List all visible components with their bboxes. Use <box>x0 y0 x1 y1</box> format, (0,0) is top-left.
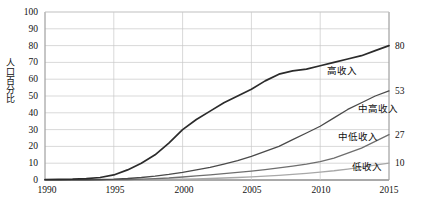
x-tick-label: 1990 <box>27 185 67 195</box>
series-label-low-income: 低收入 <box>352 162 382 172</box>
x-tick-label: 2015 <box>369 185 409 195</box>
x-tick-label: 1995 <box>95 185 135 195</box>
series-label-lower-middle-income: 中低收入 <box>338 132 378 142</box>
chart-container: 人口百分比 100 90 80 70 60 50 40 30 20 10 0 1… <box>0 0 432 205</box>
series-label-upper-middle-income: 中高收入 <box>358 104 398 114</box>
series-label-high-income: 高收入 <box>327 66 357 76</box>
end-value-label-low-income: 10 <box>395 158 405 168</box>
x-tick-label: 2000 <box>164 185 204 195</box>
end-value-label-upper-middle-income: 53 <box>395 86 405 96</box>
end-value-label-lower-middle-income: 27 <box>395 130 405 140</box>
x-tick-label: 2010 <box>301 185 341 195</box>
x-tick-label: 2005 <box>232 185 272 195</box>
plot-area <box>0 0 432 205</box>
end-value-label-high-income: 80 <box>395 41 405 51</box>
